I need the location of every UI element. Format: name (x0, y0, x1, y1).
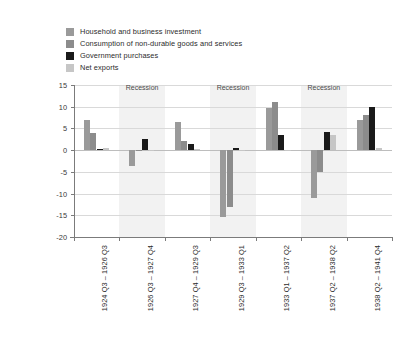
x-tick-mark (74, 237, 75, 241)
x-axis-line (70, 237, 392, 238)
bar (227, 150, 233, 206)
bar (239, 150, 245, 151)
bar (188, 144, 194, 150)
y-tick-label: 5 (63, 124, 67, 133)
legend-swatch-consumption (66, 40, 74, 48)
x-tick-label: 1927 Q4 – 1929 Q3 (191, 245, 200, 311)
bar (181, 141, 187, 150)
y-tick-label: 15 (59, 81, 67, 90)
legend-label-government: Government purchases (80, 52, 158, 60)
bar (136, 150, 142, 151)
x-tick-label: 1937 Q2 – 1938 Q2 (328, 245, 337, 311)
x-tick-label: 1926 Q3 – 1927 Q4 (146, 245, 155, 311)
legend-swatch-net-exports (66, 64, 74, 72)
gridline (74, 128, 392, 129)
gridline (74, 107, 392, 108)
bar (278, 135, 284, 151)
bar (363, 115, 369, 151)
x-tick-label: 1933 Q1 – 1937 Q2 (282, 245, 291, 311)
bar (266, 108, 272, 151)
bar (324, 132, 330, 150)
bar (311, 150, 317, 198)
bar (103, 148, 109, 150)
bar (220, 150, 226, 217)
bar (84, 120, 90, 150)
bar (194, 149, 200, 150)
legend-item: Net exports (66, 62, 366, 73)
legend-item: Government purchases (66, 50, 366, 61)
x-tick-mark (301, 237, 302, 241)
gridline (74, 215, 392, 216)
x-tick-label: 1938 Q2 – 1941 Q4 (373, 245, 382, 311)
gridline (74, 172, 392, 173)
x-tick-mark (119, 237, 120, 241)
y-tick-label: 0 (63, 146, 67, 155)
bar (376, 148, 382, 150)
legend-label-net-exports: Net exports (80, 64, 119, 72)
x-tick-mark (256, 237, 257, 241)
bar (317, 150, 323, 172)
bar (272, 102, 278, 150)
legend-swatch-government (66, 52, 74, 60)
legend-label-investment: Household and business investment (80, 28, 201, 36)
legend-item: Household and business investment (66, 26, 366, 37)
bar (285, 150, 291, 151)
chart-legend: Household and business investment Consum… (66, 26, 366, 74)
x-tick-mark (347, 237, 348, 241)
recession-band (301, 85, 346, 237)
x-tick-mark (210, 237, 211, 241)
recession-annotation: Recession (119, 84, 164, 91)
bar (357, 120, 363, 150)
x-tick-label: 1924 Q3 – 1926 Q3 (100, 245, 109, 311)
bar (149, 150, 155, 151)
x-tick-mark (392, 237, 393, 241)
x-tick-label: 1929 Q3 – 1933 Q1 (237, 245, 246, 311)
bar (90, 133, 96, 150)
bar (330, 135, 336, 150)
legend-label-consumption: Consumption of non-durable goods and ser… (80, 40, 242, 48)
bar (369, 107, 375, 150)
legend-item: Consumption of non-durable goods and ser… (66, 38, 366, 49)
gridline (74, 194, 392, 195)
y-tick-label: -15 (56, 211, 67, 220)
legend-swatch-investment (66, 28, 74, 36)
bar (175, 122, 181, 150)
recession-annotation: Recession (210, 84, 255, 91)
recession-annotation: Recession (301, 84, 346, 91)
bar (97, 149, 103, 150)
recession-band (119, 85, 164, 237)
plot-area: 151050-5-10-15-20 1924 Q3 – 1926 Q31926 … (74, 85, 392, 237)
recession-band (210, 85, 255, 237)
y-tick-label: -10 (56, 189, 67, 198)
bar (142, 139, 148, 150)
y-axis-line (74, 85, 75, 237)
bar (129, 150, 135, 166)
x-tick-mark (165, 237, 166, 241)
y-tick-label: 10 (59, 102, 67, 111)
zero-line (74, 150, 392, 151)
bar (233, 148, 239, 150)
y-tick-label: -20 (56, 233, 67, 242)
y-tick-label: -5 (60, 167, 67, 176)
